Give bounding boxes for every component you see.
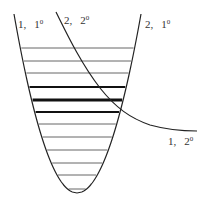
- potential-well-diagram: 1,10 2,20 2,10 1,20: [0, 0, 207, 205]
- potential-well-curve: [14, 14, 141, 193]
- label-left-top: 1,10: [18, 18, 44, 30]
- label-middle-top: 2,20: [64, 14, 90, 26]
- crossing-potential-curve: [56, 12, 197, 131]
- label-right-bottom: 1,20: [168, 135, 194, 147]
- label-right-top: 2,10: [145, 18, 171, 30]
- energy-levels: [21, 48, 133, 189]
